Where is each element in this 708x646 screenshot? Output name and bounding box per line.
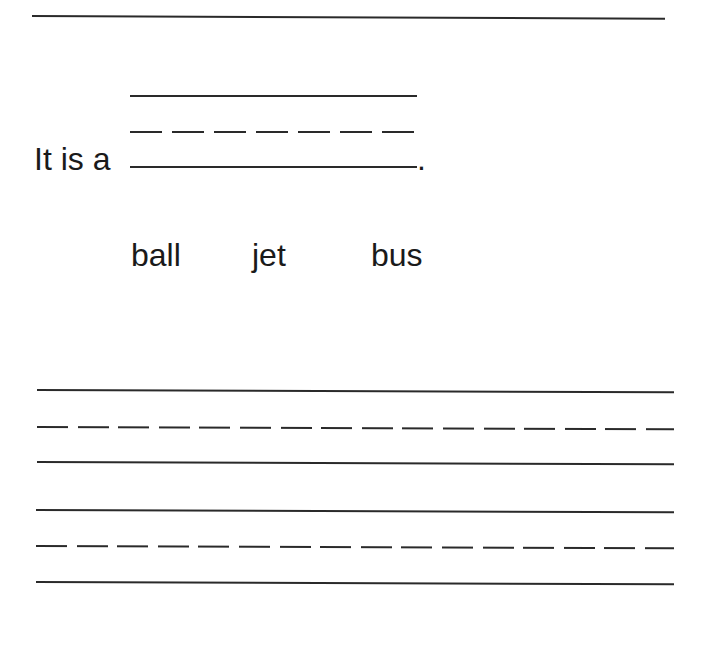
word-choice-bus[interactable]: bus [371, 239, 423, 271]
answer-top-line [130, 95, 417, 97]
sentence-prefix: It is a [34, 143, 110, 175]
row2-top-line [36, 509, 674, 513]
word-choice-ball[interactable]: ball [131, 239, 181, 271]
word-choice-jet[interactable]: jet [252, 239, 286, 271]
row1-midline [37, 426, 674, 430]
row2-baseline [36, 581, 674, 585]
sentence-period: . [417, 143, 426, 175]
row2-midline [36, 545, 674, 549]
name-line[interactable] [32, 15, 665, 20]
row1-top-line [37, 389, 674, 393]
answer-baseline [130, 166, 417, 168]
row1-baseline [37, 461, 674, 465]
answer-midline [130, 131, 417, 133]
